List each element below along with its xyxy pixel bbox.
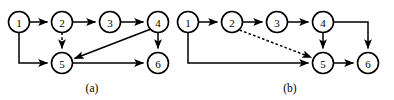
node-label-a-5: 5 xyxy=(59,58,65,70)
panel-caption-a: (a) xyxy=(86,82,99,95)
edge-b-4-to-6 xyxy=(334,22,369,49)
panels-layer: 123456(a)123456(b) xyxy=(9,12,379,96)
node-label-a-2: 2 xyxy=(59,17,65,29)
edge-a-1-to-5 xyxy=(19,33,48,64)
panel-b: 123456(b) xyxy=(178,12,379,96)
node-label-b-5: 5 xyxy=(320,58,326,70)
panel-caption-b: (b) xyxy=(283,82,297,95)
node-label-a-4: 4 xyxy=(155,17,161,29)
node-label-b-3: 3 xyxy=(274,17,280,29)
panel-a: 123456(a) xyxy=(9,12,169,96)
edge-a-4-to-5 xyxy=(75,29,151,58)
node-label-b-2: 2 xyxy=(229,17,235,29)
node-label-a-1: 1 xyxy=(16,17,22,29)
figure-container: 123456(a)123456(b) xyxy=(0,0,394,100)
node-label-b-4: 4 xyxy=(320,17,326,29)
edge-b-2-to-5 xyxy=(240,30,312,58)
node-label-a-3: 3 xyxy=(107,17,113,29)
node-label-b-6: 6 xyxy=(365,58,371,70)
node-label-b-1: 1 xyxy=(185,17,191,29)
node-label-a-6: 6 xyxy=(155,58,161,70)
edge-b-1-to-5 xyxy=(188,33,309,64)
graph-figure: 123456(a)123456(b) xyxy=(0,0,394,100)
